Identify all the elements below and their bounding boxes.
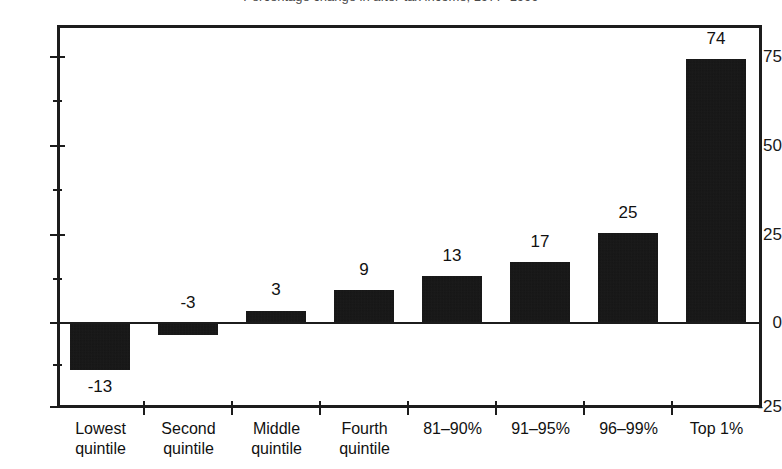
bar-91-95 — [510, 262, 570, 322]
y-tick-minus25 — [50, 406, 65, 408]
bar-value-top-1: 74 — [686, 30, 746, 48]
x-label-second-quintile: Second quintile — [145, 419, 232, 459]
bar-chart-figure: Percentage change in after-tax income, 1… — [0, 0, 782, 469]
x-label-line-1: Lowest — [57, 419, 144, 439]
y-tick-minor-37 — [53, 189, 62, 191]
x-label-81-90: 81–90% — [409, 419, 496, 439]
bar-96-99 — [598, 233, 658, 322]
y-tick-50 — [50, 145, 65, 147]
bar-value-91-95: 17 — [510, 233, 570, 251]
x-tick-7 — [671, 401, 673, 415]
x-label-fourth-quintile: Fourth quintile — [321, 419, 408, 459]
bar-lowest-quintile — [70, 324, 130, 370]
x-label-96-99: 96–99% — [585, 419, 672, 439]
x-label-line-1: 96–99% — [585, 419, 672, 439]
x-tick-4 — [407, 401, 409, 415]
bar-value-middle-quintile: 3 — [246, 281, 306, 299]
x-label-line-1: Top 1% — [673, 419, 760, 439]
x-label-line-2: quintile — [57, 439, 144, 459]
y-tick-minor-62 — [53, 100, 62, 102]
bar-middle-quintile — [246, 311, 306, 322]
x-tick-5 — [495, 401, 497, 415]
y-tick-75 — [50, 56, 65, 58]
bar-value-81-90: 13 — [422, 247, 482, 265]
x-tick-3 — [319, 401, 321, 415]
x-label-line-1: Second — [145, 419, 232, 439]
x-label-line-2: quintile — [145, 439, 232, 459]
x-tick-2 — [231, 401, 233, 415]
y-tick-25 — [50, 234, 65, 236]
bar-fourth-quintile — [334, 290, 394, 322]
y-tick-minor-12 — [53, 278, 62, 280]
x-label-line-1: Fourth — [321, 419, 408, 439]
y-label-minus25: -25 — [738, 398, 782, 415]
x-label-lowest-quintile: Lowest quintile — [57, 419, 144, 459]
bar-value-fourth-quintile: 9 — [334, 261, 394, 279]
bar-value-96-99: 25 — [598, 204, 658, 222]
x-tick-6 — [583, 401, 585, 415]
y-tick-0 — [50, 322, 65, 324]
y-tick-minor-neg12 — [53, 364, 62, 366]
bar-second-quintile — [158, 324, 218, 335]
x-label-line-1: 81–90% — [409, 419, 496, 439]
bar-value-lowest-quintile: -13 — [70, 378, 130, 396]
chart-title: Percentage change in after-tax income, 1… — [0, 0, 782, 5]
x-label-91-95: 91–95% — [497, 419, 584, 439]
x-label-line-1: Middle — [233, 419, 320, 439]
x-label-line-2: quintile — [321, 439, 408, 459]
x-label-line-1: 91–95% — [497, 419, 584, 439]
x-label-line-2: quintile — [233, 439, 320, 459]
x-tick-1 — [143, 401, 145, 415]
bar-top-1 — [686, 59, 746, 322]
bar-value-second-quintile: -3 — [158, 294, 218, 312]
x-label-top-1: Top 1% — [673, 419, 760, 439]
x-label-middle-quintile: Middle quintile — [233, 419, 320, 459]
bar-81-90 — [422, 276, 482, 322]
